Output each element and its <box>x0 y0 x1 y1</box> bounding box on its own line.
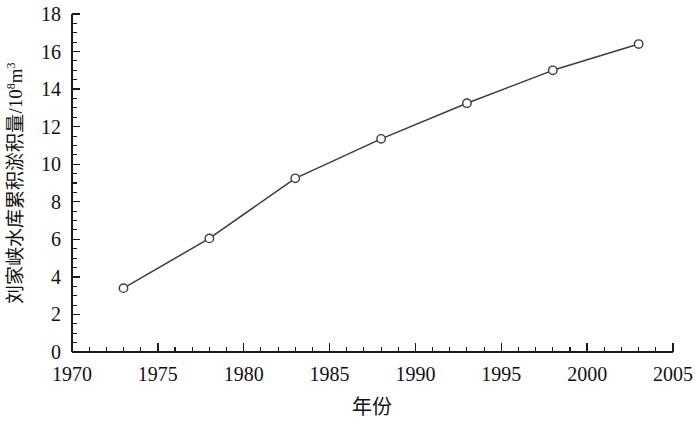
x-tick-label: 2005 <box>653 363 693 385</box>
x-tick-label: 1990 <box>395 363 435 385</box>
y-tick-label: 16 <box>41 41 61 63</box>
x-tick-label: 1975 <box>138 363 178 385</box>
y-tick-label: 8 <box>51 191 61 213</box>
x-tick-label: 1995 <box>481 363 521 385</box>
y-tick-label: 6 <box>51 228 61 250</box>
x-tick-label: 1970 <box>52 363 92 385</box>
y-tick-label: 4 <box>51 266 61 288</box>
x-tick-label: 1985 <box>310 363 350 385</box>
data-point-marker <box>634 40 642 48</box>
x-tick-label: 2000 <box>567 363 607 385</box>
x-tick-label: 1980 <box>224 363 264 385</box>
y-axis-title-unit-exponent: 3 <box>4 62 18 68</box>
line-chart-canvas: 024681012141618 197019751980198519901995… <box>0 0 695 427</box>
y-axis-title-unit: m <box>5 68 26 83</box>
y-tick-label: 12 <box>41 116 61 138</box>
svg-text:刘家峡水库累积淤积量/108m3: 刘家峡水库累积淤积量/108m3 <box>4 62 26 303</box>
x-axis-title: 年份 <box>352 396 392 418</box>
data-point-marker <box>377 135 385 143</box>
y-axis-title-main: 刘家峡水库累积淤积量/10 <box>5 89 26 303</box>
data-point-marker <box>205 234 213 242</box>
data-point-marker <box>549 66 557 74</box>
y-tick-label: 18 <box>41 3 61 25</box>
data-point-marker <box>119 284 127 292</box>
y-tick-label: 2 <box>51 303 61 325</box>
y-tick-label: 10 <box>41 153 61 175</box>
chart-figure: 024681012141618 197019751980198519901995… <box>0 0 695 427</box>
y-axis-title: 刘家峡水库累积淤积量/108m3 <box>4 62 26 303</box>
data-point-marker <box>463 99 471 107</box>
data-point-marker <box>291 174 299 182</box>
y-tick-label: 0 <box>51 341 61 363</box>
y-tick-label: 14 <box>41 78 61 100</box>
